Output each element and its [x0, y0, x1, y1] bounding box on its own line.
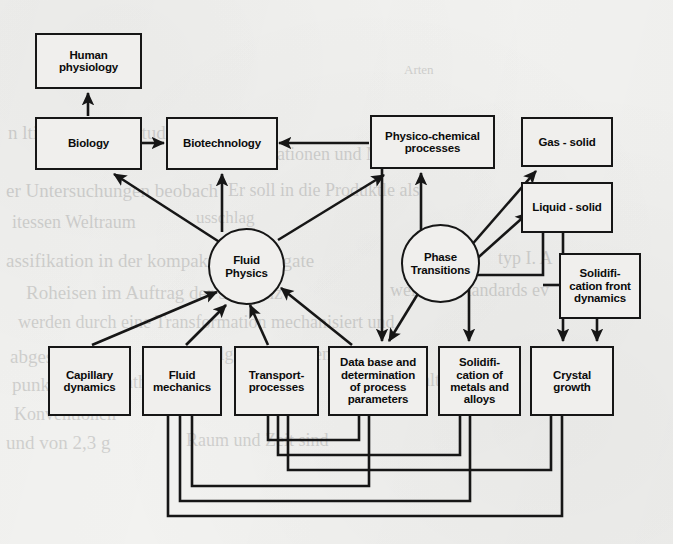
diagram-canvas: Artenn lti-Phasen-FallstudienZeitungRaum…: [0, 0, 673, 544]
node-data-base[interactable]: Data base and determination of process p…: [328, 346, 428, 416]
node-capillary-dynamics[interactable]: Capillary dynamics: [48, 346, 131, 416]
node-label: Physico-chemical processes: [385, 130, 480, 155]
node-label: Human physiology: [59, 49, 118, 74]
node-label: Liquid - solid: [532, 201, 601, 213]
node-solidification-front-dynamics[interactable]: Solidifi- cation front dynamics: [559, 253, 641, 319]
node-biology[interactable]: Biology: [35, 117, 142, 170]
edge-transport-to-fluidphysics: [250, 305, 268, 345]
edge-fluidphysics-to-biology: [114, 174, 221, 243]
node-label: Capillary dynamics: [64, 369, 116, 394]
edge-capillary-to-fluidphysics: [92, 292, 217, 345]
node-label: Solidifi- cation of metals and alloys: [450, 356, 509, 406]
node-label: Fluid Physics: [225, 254, 267, 279]
edge-liquidsolid-to-solidification: [469, 233, 543, 341]
node-biotechnology[interactable]: Biotechnology: [166, 117, 278, 170]
node-label: Fluid mechanics: [153, 369, 211, 394]
node-human-physiology[interactable]: Human physiology: [35, 33, 142, 89]
edge-phase-to-liquid-solid: [472, 213, 528, 263]
node-label: Gas - solid: [538, 136, 595, 148]
node-label: Solidifi- cation front dynamics: [569, 267, 630, 304]
edge-phase-to-database: [389, 292, 419, 341]
node-gas-solid[interactable]: Gas - solid: [521, 117, 613, 167]
node-fluid-physics[interactable]: Fluid Physics: [208, 228, 285, 305]
node-transport-processes[interactable]: Transport- processes: [234, 346, 319, 416]
node-solidification-metals-alloys[interactable]: Solidifi- cation of metals and alloys: [438, 346, 521, 416]
node-fluid-mechanics[interactable]: Fluid mechanics: [142, 346, 222, 416]
node-label: Biology: [68, 137, 109, 149]
node-label: Transport- processes: [249, 369, 305, 394]
node-liquid-solid[interactable]: Liquid - solid: [521, 182, 613, 233]
edge-database-to-fluidphysics: [281, 288, 352, 345]
edge-fluidmech-to-fluidphysics: [186, 305, 226, 345]
node-label: Crystal growth: [553, 369, 591, 394]
node-crystal-growth[interactable]: Crystal growth: [530, 346, 614, 416]
node-label: Data base and determination of process p…: [340, 356, 416, 406]
node-phase-transitions[interactable]: Phase Transitions: [401, 224, 480, 303]
node-label: Phase Transitions: [411, 251, 471, 276]
node-physico-chemical-processes[interactable]: Physico-chemical processes: [370, 115, 495, 169]
node-label: Biotechnology: [183, 137, 261, 149]
edge-fluidphysics-to-physico: [278, 175, 384, 240]
